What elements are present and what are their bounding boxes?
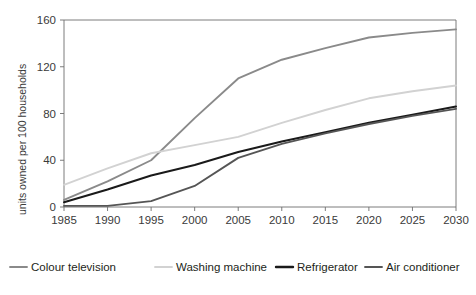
y-axis-ticks: 04080120160 <box>37 14 64 213</box>
line-chart: 04080120160 1985199019952000200520102015… <box>0 0 476 295</box>
y-axis-title: units owned per 100 households <box>16 64 28 215</box>
x-tick-label: 1990 <box>95 214 121 226</box>
series-line-air-conditioner <box>64 109 456 206</box>
chart-legend: Colour televisionWashing machineRefriger… <box>10 261 460 273</box>
x-tick-label: 2015 <box>313 214 339 226</box>
x-tick-label: 2030 <box>443 214 469 226</box>
legend-label-air-conditioner: Air conditioner <box>386 261 460 273</box>
legend-label-colour-television: Colour television <box>31 261 116 273</box>
series-line-washing-machine <box>64 85 456 184</box>
series-line-refrigerator <box>64 106 456 202</box>
x-tick-label: 1995 <box>138 214 164 226</box>
y-tick-label: 40 <box>43 154 56 166</box>
legend-label-washing-machine: Washing machine <box>176 261 267 273</box>
y-tick-label: 80 <box>43 108 56 120</box>
x-tick-label: 2000 <box>182 214 208 226</box>
chart-canvas: 04080120160 1985199019952000200520102015… <box>0 0 476 295</box>
plot-frame <box>64 20 456 207</box>
series-line-colour-television <box>64 29 456 200</box>
x-axis-ticks: 1985199019952000200520102015202020252030 <box>51 207 469 226</box>
x-tick-label: 2005 <box>225 214 251 226</box>
y-tick-label: 0 <box>50 201 56 213</box>
x-tick-label: 1985 <box>51 214 77 226</box>
y-tick-label: 160 <box>37 14 56 26</box>
x-tick-label: 2010 <box>269 214 295 226</box>
y-tick-label: 120 <box>37 61 56 73</box>
legend-label-refrigerator: Refrigerator <box>297 261 358 273</box>
series-lines <box>64 29 456 205</box>
x-tick-label: 2025 <box>400 214 426 226</box>
x-tick-label: 2020 <box>356 214 382 226</box>
